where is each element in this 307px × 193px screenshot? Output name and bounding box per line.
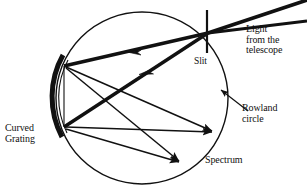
diffracted-ray-lower-to-spectrum-lower [66, 129, 179, 162]
label-spectrum: Spectrum [205, 155, 243, 166]
label-slit: Slit [194, 56, 207, 66]
label-curved-grating: Curved Grating [5, 123, 35, 144]
label-rowland-circle: Rowland circle [242, 103, 277, 124]
label-light-from-telescope: Light from the telescope [246, 24, 282, 56]
incident-ray-to-lower-grating [64, 33, 208, 127]
incident-ray-to-upper-grating [64, 33, 208, 66]
rowland-circle-diagram: Light from the telescope Slit Rowland ci… [0, 0, 307, 193]
